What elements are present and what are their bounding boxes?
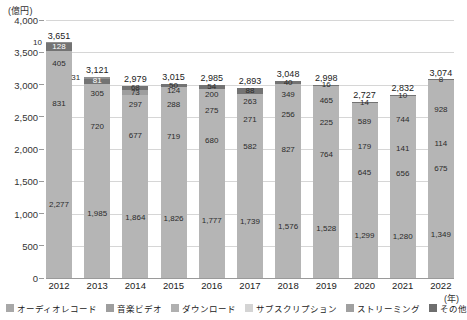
bar-column[interactable]: 3,12131813057201,985 [84, 20, 110, 278]
bar-segment[interactable]: 124 [161, 87, 187, 95]
bar-segment[interactable]: 677 [122, 114, 148, 158]
bar-segment-label: 1,576 [278, 223, 298, 231]
bar-stack: 164652257641,528 [313, 85, 339, 278]
bar-segment[interactable]: 288 [161, 95, 187, 114]
bar-column[interactable]: 2,97968732976771,864 [122, 20, 148, 278]
y-axis-tick: 1,000 [14, 208, 38, 219]
legend-item[interactable]: ストリーミング [346, 302, 420, 314]
bar-segment[interactable]: 1,739 [237, 166, 263, 278]
bar-segment[interactable]: 141 [390, 144, 416, 153]
legend-item[interactable]: オーディオレコード [6, 302, 97, 314]
bar-segment-label: 720 [91, 123, 104, 131]
x-axis-tick-label: 2019 [313, 280, 339, 294]
bar-segment-label: 1,826 [164, 215, 184, 223]
bar-segment-label: 827 [281, 146, 294, 154]
bar-column[interactable]: 2,727145891796451,299 [352, 20, 378, 278]
bar-segment[interactable]: 1,528 [313, 179, 339, 278]
x-axis-tick-label: 2014 [122, 280, 148, 294]
legend-item[interactable]: 音楽ビデオ [106, 302, 162, 314]
x-axis-tick-label: 2015 [161, 280, 187, 294]
bar-segment[interactable]: 744 [390, 96, 416, 144]
bar-column[interactable]: 2,998164652257641,528 [313, 20, 339, 278]
bar-segment[interactable]: 128 [46, 43, 72, 51]
bar-segment-label: 2,277 [49, 201, 69, 209]
bar-column[interactable]: 3,015501242887191,826 [161, 20, 187, 278]
bar-segment[interactable]: 680 [199, 120, 225, 164]
bar-column[interactable]: 2,985542002756801,777 [199, 20, 225, 278]
bar-segment[interactable]: 645 [352, 153, 378, 195]
bar-segment-label: 88 [245, 87, 254, 95]
bar-segment-label: 271 [243, 116, 256, 124]
legend-label: サブスクリプション [256, 302, 337, 314]
plot-area: 3,651101284058312,2773,12131813057201,98… [46, 20, 454, 278]
bar-segment[interactable]: 263 [237, 94, 263, 111]
y-axis-tick-labels: 4,0003,5003,0002,5002,0001,5001,0005000 [0, 20, 44, 278]
y-axis-tick: 500 [22, 240, 38, 251]
legend-item[interactable]: その他 [429, 302, 467, 314]
bar-segment[interactable]: 1,985 [84, 150, 110, 278]
legend-swatch-icon [429, 304, 437, 312]
bar-stack: 145891796451,299 [352, 102, 378, 278]
bar-stack: 68732976771,864 [122, 86, 148, 278]
bar-segment[interactable]: 256 [275, 107, 301, 124]
bar-group: 3,651101284058312,2773,12131813057201,98… [46, 20, 454, 278]
bar-column[interactable]: 3,07489281146751,349 [428, 20, 454, 278]
bar-column[interactable]: 2,893882632715821,739 [237, 20, 263, 278]
y-axis-tick: 3,000 [14, 79, 38, 90]
bar-segment[interactable]: 297 [122, 95, 148, 114]
bar-segment[interactable]: 349 [275, 84, 301, 107]
bar-segment-label: 744 [396, 116, 409, 124]
bar-segment[interactable]: 179 [352, 141, 378, 153]
bar-segment[interactable]: 1,349 [428, 191, 454, 278]
legend-label: 音楽ビデオ [117, 302, 162, 314]
bar-column[interactable]: 3,048403492568271,576 [275, 20, 301, 278]
bar-segment-label: 124 [167, 87, 180, 95]
bar-segment[interactable]: 405 [46, 51, 72, 77]
bar-segment[interactable]: 200 [199, 89, 225, 102]
bar-segment[interactable]: 1,299 [352, 194, 378, 278]
bar-segment[interactable]: 225 [313, 116, 339, 131]
y-axis-tick-mark [39, 116, 44, 117]
bar-column[interactable]: 2,832107441416561,280 [390, 20, 416, 278]
bar-segment[interactable]: 1,826 [161, 160, 187, 278]
bar-segment[interactable]: 1,576 [275, 176, 301, 278]
bar-segment-label: 589 [358, 118, 371, 126]
bar-segment[interactable]: 675 [428, 147, 454, 191]
bar-segment[interactable]: 114 [428, 140, 454, 147]
bar-segment-label: 928 [434, 106, 447, 114]
bar-segment[interactable]: 1,777 [199, 163, 225, 278]
legend-item[interactable]: ダウンロード [171, 302, 236, 314]
bar-segment[interactable]: 831 [46, 78, 72, 132]
legend-swatch-icon [346, 304, 354, 312]
legend-item[interactable]: サブスクリプション [245, 302, 337, 314]
bar-segment-label: 263 [243, 98, 256, 106]
bar-segment-label: 465 [320, 97, 333, 105]
bar-segment[interactable]: 589 [352, 103, 378, 141]
x-axis-tick-labels: 2012201320142015201620172018201920202021… [46, 280, 454, 294]
bar-segment-label: 297 [129, 101, 142, 109]
bar-stack: 882632715821,739 [237, 88, 263, 278]
legend-swatch-icon [245, 304, 253, 312]
bar-segment[interactable]: 305 [84, 84, 110, 104]
bar-segment[interactable]: 1,280 [390, 195, 416, 278]
bar-segment[interactable]: 827 [275, 123, 301, 176]
bar-column[interactable]: 3,651101284058312,277 [46, 20, 72, 278]
bar-segment[interactable]: 465 [313, 86, 339, 116]
bar-segment[interactable]: 271 [237, 111, 263, 128]
x-axis-tick-label: 2012 [46, 280, 72, 294]
bar-segment[interactable]: 764 [313, 130, 339, 179]
bar-segment[interactable]: 1,864 [122, 158, 148, 278]
x-axis-line [46, 278, 454, 279]
bar-segment-label: 40 [284, 79, 293, 87]
bar-segment[interactable]: 275 [199, 102, 225, 120]
bar-segment-label: 1,777 [202, 217, 222, 225]
bar-segment[interactable]: 582 [237, 128, 263, 166]
bar-segment[interactable]: 2,277 [46, 131, 72, 278]
bar-segment[interactable]: 928 [428, 80, 454, 140]
bar-segment[interactable]: 720 [84, 104, 110, 150]
y-axis-tick: 1,500 [14, 176, 38, 187]
bar-segment[interactable]: 719 [161, 114, 187, 160]
bar-segment[interactable]: 656 [390, 153, 416, 195]
bar-segment-label: 656 [396, 170, 409, 178]
